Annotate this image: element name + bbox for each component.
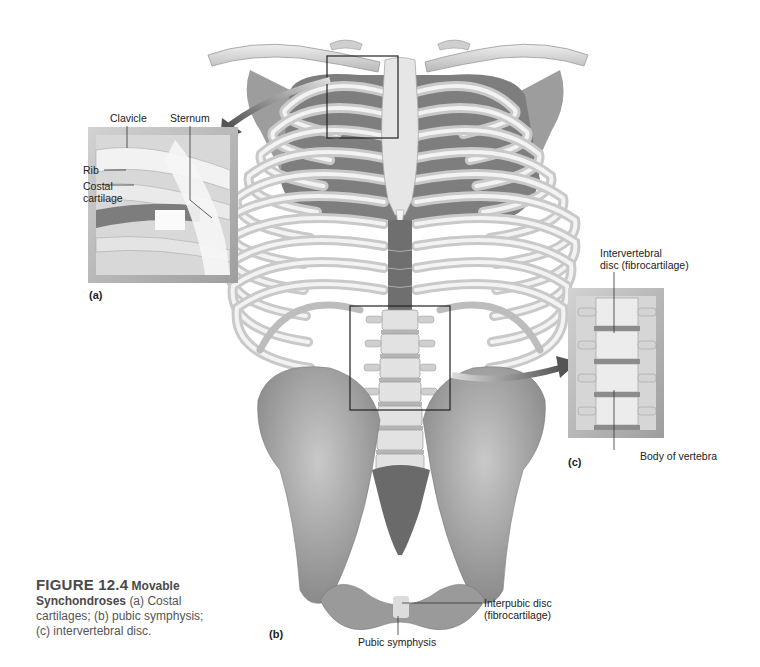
sternum — [382, 58, 419, 216]
vertebra-body — [596, 364, 638, 392]
intervertebral-disc — [380, 354, 420, 358]
transverse-process — [638, 407, 656, 415]
intervertebral-disc — [594, 359, 640, 364]
transverse-process — [365, 340, 381, 347]
transverse-process — [638, 308, 656, 316]
figure-stage: Clavicle Sternum Rib Costal cartilage In… — [0, 0, 760, 667]
panel-label-c: (c) — [568, 456, 581, 468]
intervertebral-disc — [378, 402, 422, 406]
vertebra-body — [596, 298, 638, 326]
caption-line1: (a) Costal — [129, 594, 181, 608]
panel-label-a: (a) — [89, 289, 102, 301]
vertebra-body — [379, 382, 421, 402]
intervertebral-disc — [377, 426, 423, 430]
figure-number: FIGURE 12.4 — [36, 576, 128, 593]
label-sternum: Sternum — [170, 112, 210, 124]
label-pubic-symphysis: Pubic symphysis — [358, 636, 436, 648]
intervertebral-disc — [381, 330, 419, 334]
label-costal-cartilage-line2: cartilage — [83, 192, 123, 204]
intervertebral-disc — [594, 425, 640, 430]
label-clavicle: Clavicle — [110, 112, 147, 124]
transverse-process — [366, 316, 382, 323]
interpubic-disc — [393, 596, 409, 618]
intervertebral-disc — [594, 392, 640, 397]
sacrum — [372, 465, 430, 555]
transverse-process — [578, 374, 596, 382]
transverse-process — [364, 364, 380, 371]
vertebra-body — [381, 334, 419, 354]
thoracic-spine — [388, 220, 412, 310]
intervertebral-disc — [376, 450, 424, 454]
label-body-of-vertebra: Body of vertebra — [640, 450, 717, 462]
inset-c-intervertebral-disc — [568, 288, 664, 438]
caption-line3: (c) intervertebral disc. — [36, 624, 151, 638]
transverse-process — [578, 341, 596, 349]
inset-a-costal-cartilage — [88, 127, 238, 283]
panel-label-b: (b) — [269, 628, 283, 640]
caption-line2: cartilages; (b) pubic symphysis; — [36, 609, 203, 623]
vertebra-body — [382, 310, 418, 330]
transverse-process — [578, 407, 596, 415]
vertebra-body — [596, 397, 638, 425]
figure-caption: FIGURE 12.4 Movable Synchondroses (a) Co… — [36, 577, 236, 639]
label-intervertebral-disc-line2: disc (fibrocartilage) — [600, 259, 689, 271]
vertebra-body — [378, 406, 422, 426]
intervertebral-disc — [594, 326, 640, 331]
ilium-right — [423, 367, 545, 604]
transverse-process — [418, 316, 434, 323]
label-interpubic-disc-line1: Interpubic disc — [484, 597, 552, 609]
label-rib: Rib — [83, 164, 99, 176]
figure-title-part1: Movable — [132, 579, 180, 593]
figure-title-part2: Synchondroses — [36, 594, 126, 608]
label-intervertebral-disc-line1: Intervertebral — [600, 247, 662, 259]
transverse-process — [419, 340, 435, 347]
intervertebral-disc — [379, 378, 421, 382]
transverse-process — [638, 374, 656, 382]
label-costal-cartilage-line1: Costal — [83, 180, 113, 192]
skeleton-illustration — [0, 0, 760, 667]
ilium-left — [258, 367, 380, 604]
vertebra-body — [377, 430, 423, 450]
transverse-process — [638, 341, 656, 349]
vertebra-body — [380, 358, 420, 378]
transverse-process — [420, 364, 436, 371]
vertebra-body — [596, 331, 638, 359]
label-interpubic-disc-line2: (fibrocartilage) — [484, 609, 551, 621]
transverse-process — [578, 308, 596, 316]
